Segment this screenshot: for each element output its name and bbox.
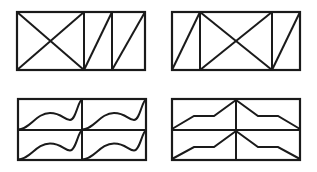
top-left-cell-3-diagonal-motif: [112, 12, 145, 70]
bottom-right-panel: [172, 99, 300, 160]
top-right-cell-3-diagonal-motif: [272, 12, 300, 70]
bottom-right-cell-bottom-left-zigzag: [172, 131, 236, 159]
bottom-left-cell-bottom-left-s-curve: [18, 131, 82, 160]
bottom-right-cell-bottom-right-zigzag: [236, 131, 300, 159]
figure-root: [0, 0, 317, 172]
top-left-cell-1-x-motif: [17, 12, 84, 70]
bottom-left-cell-bottom-right-s-curve: [82, 131, 146, 160]
bottom-right-cell-top-right-zigzag: [236, 100, 300, 129]
bottom-right-cell-top-left-zigzag: [172, 100, 236, 129]
bottom-left-cell-top-right-s-curve: [82, 100, 146, 130]
top-left-cell-2-diagonal-motif: [84, 12, 112, 70]
diagonal-up: [272, 12, 300, 70]
top-left-panel-frame: [17, 12, 145, 70]
top-right-cell-1-diagonal-motif: [172, 12, 200, 70]
top-left-panel: [17, 12, 145, 70]
bottom-left-cell-top-left-s-curve: [18, 100, 82, 130]
top-right-cell-2-x-motif: [200, 12, 272, 70]
line-drawing-figure: [0, 0, 317, 172]
diagonal-up: [84, 12, 112, 70]
diagonal-up: [172, 12, 200, 70]
bottom-left-panel: [18, 99, 146, 160]
top-right-panel: [172, 12, 300, 70]
diagonal-up: [112, 12, 145, 70]
